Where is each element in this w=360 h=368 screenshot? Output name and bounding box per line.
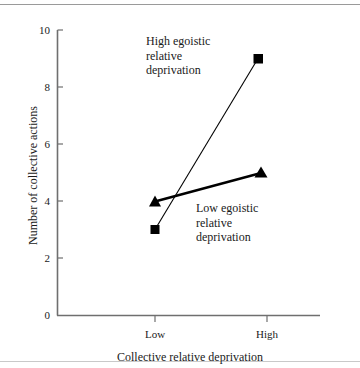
annotation-low-egoistic: Low egoistic relative deprivation [196, 201, 258, 245]
y-axis-title: Number of collective actions [26, 66, 41, 286]
y-tick-label-0: 0 [28, 310, 50, 321]
x-tick-label-high: High [237, 329, 297, 340]
x-axis-ticks [155, 316, 267, 323]
series-low-egoistic-line [155, 173, 261, 202]
annotation-high-line-3: deprivation [146, 63, 210, 78]
series-high-egoistic-marker-high [254, 54, 264, 64]
series-high-egoistic-marker-low [151, 225, 160, 234]
annotation-high-line-1: High egoistic [146, 34, 210, 49]
series-low-egoistic-marker-high [255, 167, 268, 178]
x-axis-title: Collective relative deprivation [60, 350, 320, 365]
annotation-high-egoistic: High egoistic relative deprivation [146, 34, 210, 78]
x-tick-label-low: Low [125, 329, 185, 340]
figure-container: 10 8 6 4 2 0 Low High Number of collecti… [0, 0, 360, 368]
y-tick-label-10: 10 [28, 25, 50, 36]
annotation-high-line-2: relative [146, 49, 210, 64]
annotation-low-line-1: Low egoistic [196, 201, 258, 216]
annotation-low-line-3: deprivation [196, 230, 258, 245]
annotation-low-line-2: relative [196, 216, 258, 231]
y-axis-ticks [58, 30, 64, 258]
